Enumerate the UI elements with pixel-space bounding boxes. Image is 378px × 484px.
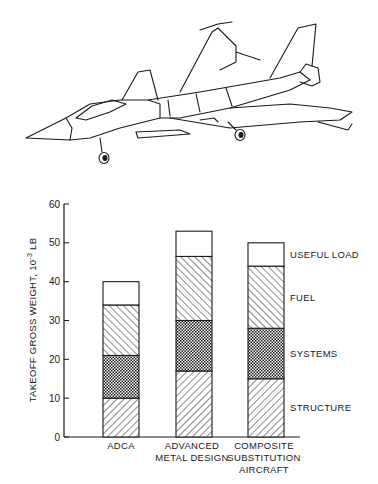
aircraft-canopy xyxy=(76,100,126,120)
bar-segment-useful-load xyxy=(248,243,284,266)
bar-segment-structure xyxy=(103,398,139,437)
bar-segment-structure xyxy=(176,371,212,437)
bar-segment-systems xyxy=(176,321,212,371)
y-axis-title: TAKEOFF GROSS WEIGHT, 10-3 LB xyxy=(26,238,38,403)
aircraft-forward-fuselage xyxy=(66,100,160,140)
aircraft-nose-gear xyxy=(100,138,102,152)
bar-segment-systems xyxy=(103,355,139,398)
y-tick-label: 0 xyxy=(54,432,60,443)
legend-label: FUEL xyxy=(290,292,315,303)
x-category-label: METAL DESIGN xyxy=(155,452,228,463)
x-category-label: COMPOSITE xyxy=(234,440,294,451)
bar-segment-useful-load xyxy=(103,282,139,305)
weight-chart: 0102030405060 ADCAADVANCEDMETAL DESIGNCO… xyxy=(0,190,378,484)
legend-label: STRUCTURE xyxy=(290,402,351,413)
x-category-label: SUBSTITUTION xyxy=(227,452,300,463)
y-tick-label: 30 xyxy=(49,315,61,326)
y-tick-label: 40 xyxy=(49,276,61,287)
aircraft-tail-left xyxy=(122,70,158,100)
x-category-label: ADCA xyxy=(107,440,135,451)
aircraft-wing-lower xyxy=(170,104,352,128)
aircraft-center-fuselage xyxy=(148,72,310,118)
aircraft-wing-upper xyxy=(180,28,236,92)
aircraft-pod xyxy=(136,130,190,138)
y-tick-label: 60 xyxy=(49,199,61,210)
chart-labels: ADCAADVANCEDMETAL DESIGNCOMPOSITESUBSTIT… xyxy=(107,249,359,475)
aircraft-main-gear xyxy=(228,122,236,130)
bar-segment-useful-load xyxy=(176,231,212,256)
aircraft-illustration xyxy=(0,0,378,175)
x-category-label: AIRCRAFT xyxy=(239,464,289,475)
legend-label: USEFUL LOAD xyxy=(290,249,359,260)
y-tick-label: 50 xyxy=(49,237,61,248)
bar-segment-fuel xyxy=(103,305,139,355)
aircraft-nose xyxy=(26,118,72,140)
y-tick-label: 10 xyxy=(49,393,61,404)
x-category-label: ADVANCED xyxy=(165,440,219,451)
aircraft-tail-right xyxy=(270,24,316,78)
bar-segment-systems xyxy=(248,328,284,378)
bar-segment-fuel xyxy=(248,266,284,328)
legend-label: SYSTEMS xyxy=(290,348,338,359)
bar-segment-structure xyxy=(248,379,284,437)
chart-bars xyxy=(103,231,284,437)
bar-segment-fuel xyxy=(176,256,212,320)
y-tick-label: 20 xyxy=(49,354,61,365)
